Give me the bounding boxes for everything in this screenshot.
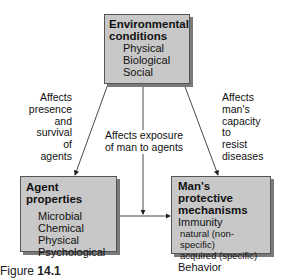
- label-affects-capacity: Affects man's capacity to resist disease…: [222, 92, 282, 163]
- man-item-acquired: acquired (specific): [178, 250, 264, 261]
- caption-number: 14.1: [37, 264, 60, 278]
- mans-protective-mechanisms-box: Man's protective mechanisms Immunity nat…: [171, 176, 271, 254]
- agent-item: Microbial: [38, 210, 111, 222]
- agent-item: Chemical: [38, 222, 111, 234]
- agent-title: Agent properties: [26, 181, 111, 205]
- env-title-line2: conditions: [109, 30, 185, 42]
- man-title-line1: Man's protective: [178, 180, 264, 204]
- figure-caption: Figure 14.1: [0, 264, 61, 278]
- agent-item: Psychological: [38, 246, 111, 258]
- man-item-immunity: Immunity: [178, 216, 264, 228]
- agent-properties-box: Agent properties Microbial Chemical Phys…: [20, 176, 117, 252]
- man-title-line2: mechanisms: [178, 204, 264, 216]
- env-item: Social: [123, 66, 185, 78]
- environmental-conditions-box: Environmental conditions Physical Biolog…: [104, 14, 190, 84]
- env-item: Physical: [123, 42, 185, 54]
- caption-prefix: Figure: [0, 264, 34, 278]
- label-affects-presence: Affects presence and survival of agents: [18, 92, 72, 163]
- man-item-natural: natural (non-specific): [178, 228, 264, 250]
- env-item: Biological: [123, 54, 185, 66]
- man-item-behavior: Behavior: [178, 261, 264, 273]
- label-affects-exposure: Affects exposure of man to agents: [100, 130, 188, 154]
- agent-item: Physical: [38, 234, 111, 246]
- env-title-line1: Environmental: [109, 18, 185, 30]
